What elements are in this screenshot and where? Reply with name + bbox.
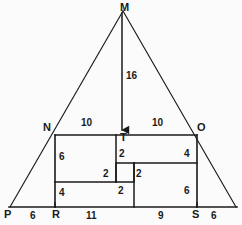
vertex-label-O: O [197,122,206,133]
measure-base-XS-9: 9 [158,211,164,221]
measure-O-upper-4: 4 [184,149,190,159]
measure-base-RX-11: 11 [86,211,97,221]
measure-N-lower-4: 4 [59,188,65,198]
measure-O-lower-6: 6 [184,186,190,196]
central-square [116,163,134,182]
geometry-diagram: M N T O P R S 16 10 10 6 2 4 2 2 2 4 6 6… [0,0,242,225]
vertex-label-P: P [4,209,11,220]
vertex-label-T: T [120,132,127,143]
vertex-label-S: S [192,209,199,220]
measure-altitude-16: 16 [126,71,137,81]
vertex-label-R: R [52,209,60,220]
measure-square-left-2: 2 [103,169,109,179]
measure-T-upper-2: 2 [119,149,125,159]
measure-N-upper-6: 6 [59,152,65,162]
measure-base-right-6: 6 [211,211,217,221]
measure-base-PR-6: 6 [30,211,36,221]
vertex-label-N: N [43,122,51,133]
vertex-label-M: M [120,2,129,13]
measure-NT-10: 10 [81,118,92,128]
measure-TO-10: 10 [152,118,163,128]
measure-square-bottom-2: 2 [118,186,124,196]
measure-square-right-2: 2 [136,169,142,179]
